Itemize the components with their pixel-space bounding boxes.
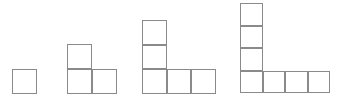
- unit-square: [67, 44, 92, 69]
- figure-2: [67, 44, 117, 94]
- unit-square: [240, 26, 263, 49]
- unit-square: [142, 20, 167, 45]
- unit-square: [167, 69, 192, 94]
- unit-square: [240, 3, 263, 26]
- unit-square: [285, 71, 308, 94]
- unit-square: [12, 69, 37, 94]
- figure-stage: [0, 0, 348, 100]
- figure-1: [12, 69, 37, 94]
- unit-square: [191, 69, 216, 94]
- unit-square: [308, 71, 331, 94]
- unit-square: [240, 48, 263, 71]
- unit-square: [142, 45, 167, 70]
- unit-square: [92, 69, 117, 94]
- figure-3: [142, 20, 216, 94]
- unit-square: [263, 71, 286, 94]
- unit-square: [240, 71, 263, 94]
- figure-4: [240, 3, 330, 93]
- unit-square: [67, 69, 92, 94]
- unit-square: [142, 69, 167, 94]
